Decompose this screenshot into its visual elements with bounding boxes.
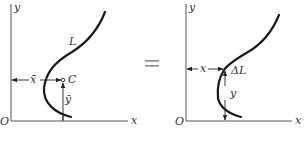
left-panel: O y x L x̄ C ȳ xyxy=(0,1,138,128)
left-origin-label: O xyxy=(0,115,9,128)
right-panel: O y x x ΔL y xyxy=(175,1,302,128)
element-label-delta-L: ΔL xyxy=(230,64,246,77)
element-y-label: y xyxy=(229,87,237,100)
right-curve xyxy=(218,15,279,117)
equals-sign xyxy=(145,60,159,67)
xbar-label: x̄ xyxy=(30,73,37,86)
centroid-point-C xyxy=(61,78,65,82)
left-x-axis-label: x xyxy=(131,114,138,127)
right-y-axis-label: y xyxy=(188,1,196,14)
ybar-label: ȳ xyxy=(64,93,72,106)
left-curve-L xyxy=(44,12,105,117)
left-y-axis-label: y xyxy=(13,1,21,14)
right-origin-label: O xyxy=(175,115,184,128)
centroid-label-C: C xyxy=(68,73,77,86)
centroid-diagram: O y x L x̄ C ȳ O y x x ΔL xyxy=(0,0,304,142)
element-x-label: x xyxy=(200,62,207,75)
curve-label-L: L xyxy=(68,35,76,48)
right-x-axis-label: x xyxy=(295,114,302,127)
